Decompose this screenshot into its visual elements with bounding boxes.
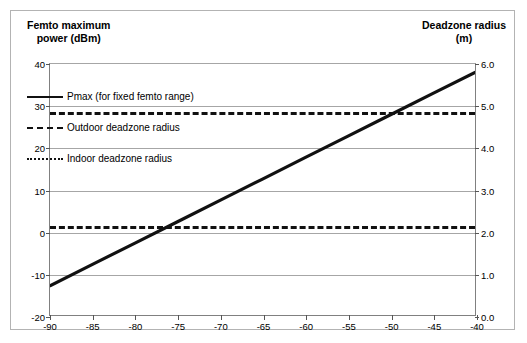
legend-item: Indoor deadzone radius: [27, 143, 267, 174]
x-axis-tick-label: -80: [129, 321, 143, 332]
right-axis-tick-label: 1.0: [481, 269, 494, 280]
legend-swatch-icon: [27, 127, 63, 129]
legend-swatch-icon: [27, 96, 63, 98]
legend-item-label: Indoor deadzone radius: [67, 153, 172, 164]
left-axis-tick-label: 0: [40, 227, 45, 238]
right-axis-tick-mark: [475, 233, 479, 234]
x-axis-tick-mark: [434, 315, 435, 320]
legend-item-label: Pmax (for fixed femto range): [67, 91, 194, 102]
left-axis-tick-label: -10: [31, 269, 45, 280]
x-axis-tick-label: -65: [257, 321, 271, 332]
x-axis-tick-mark: [477, 315, 478, 320]
right-axis-tick-mark: [475, 106, 479, 107]
indoor-deadzone-line: [50, 226, 475, 229]
x-axis-tick-label: -55: [342, 321, 356, 332]
right-axis-tick-label: 2.0: [481, 227, 494, 238]
x-axis-tick-label: -85: [86, 321, 100, 332]
right-axis-tick-label: 6.0: [481, 59, 494, 70]
x-axis-tick-mark: [50, 315, 51, 320]
x-axis-tick-label: -40: [470, 321, 484, 332]
left-axis-tick-label: 40: [34, 59, 45, 70]
x-axis-tick-label: -50: [385, 321, 399, 332]
right-axis-tick-mark: [475, 275, 479, 276]
x-axis-tick-mark: [349, 315, 350, 320]
legend-item: Outdoor deadzone radius: [27, 112, 267, 143]
x-axis-tick-mark: [93, 315, 94, 320]
right-axis-tick-mark: [475, 191, 479, 192]
right-axis-title: Deadzone radius (m): [422, 19, 506, 45]
x-axis-tick-mark: [392, 315, 393, 320]
x-axis-tick-mark: [221, 315, 222, 320]
right-axis-tick-mark: [475, 148, 479, 149]
x-axis-tick-label: -75: [171, 321, 185, 332]
chart-figure: Femto maximum power (dBm) Deadzone radiu…: [10, 10, 515, 330]
right-axis-tick-label: 5.0: [481, 101, 494, 112]
x-axis-tick-mark: [306, 315, 307, 320]
right-axis-tick-mark: [475, 64, 479, 65]
x-axis-tick-label: -70: [214, 321, 228, 332]
x-axis-tick-mark: [264, 315, 265, 320]
legend-item: Pmax (for fixed femto range): [27, 81, 267, 112]
left-axis-tick-label: 10: [34, 185, 45, 196]
legend-swatch-icon: [27, 158, 63, 160]
left-axis-title: Femto maximum power (dBm): [27, 19, 110, 45]
right-axis-tick-label: 3.0: [481, 185, 494, 196]
x-axis-tick-mark: [135, 315, 136, 320]
chart-legend: Pmax (for fixed femto range)Outdoor dead…: [27, 81, 267, 174]
x-axis-tick-label: -60: [299, 321, 313, 332]
x-axis-tick-mark: [178, 315, 179, 320]
x-axis-tick-label: -90: [43, 321, 57, 332]
right-axis-tick-label: 4.0: [481, 143, 494, 154]
x-axis-tick-label: -45: [427, 321, 441, 332]
legend-item-label: Outdoor deadzone radius: [67, 122, 180, 133]
